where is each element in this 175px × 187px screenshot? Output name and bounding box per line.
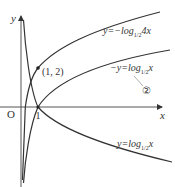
x-tick-label-1: 1 (36, 110, 41, 121)
origin-label: O (7, 108, 15, 120)
point-label: (1, 2) (42, 66, 64, 78)
point-1-0 (36, 105, 39, 108)
y-axis-label: y (10, 12, 16, 24)
point-1-2 (36, 66, 40, 70)
x-axis-label: x (159, 109, 165, 121)
label-neg-y-log-half-x: −y=log1/2x (110, 62, 153, 75)
label-neg-log-half-4x: y=−log1/24x (102, 25, 151, 38)
curve-marker-2: ② (142, 85, 151, 96)
log-graph-figure: y x O 1 (1, 2) y=−log1/24x −y=log1/2x ② … (0, 0, 175, 187)
